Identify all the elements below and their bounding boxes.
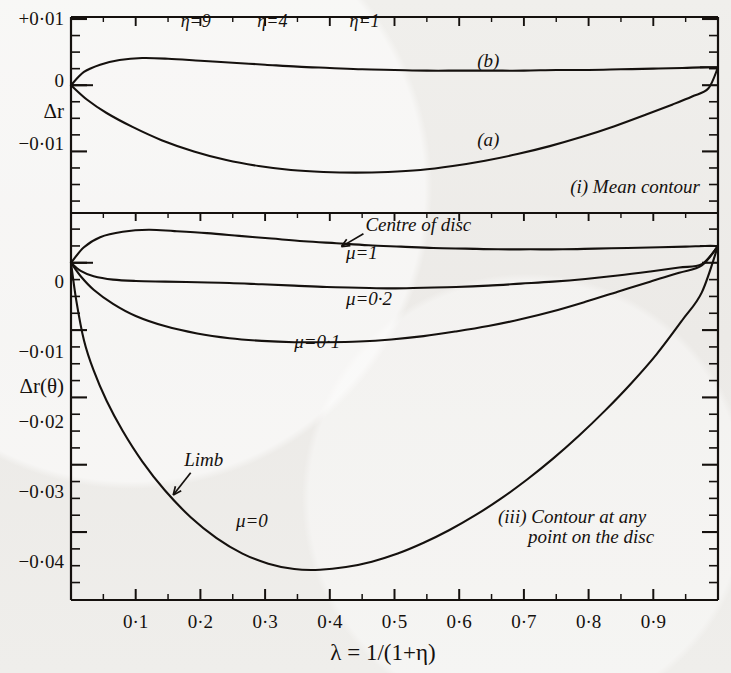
- x-tick-label-1: 0·2: [188, 611, 213, 632]
- curve-label-a: (a): [477, 129, 499, 151]
- bottom-ytick-label-1: −0·01: [18, 341, 64, 362]
- bottom-ytick-label-3: −0·03: [18, 481, 64, 502]
- annotation-centre-of-disc: Centre of disc: [365, 214, 471, 235]
- bottom-curve-mu-0p2: [71, 246, 718, 288]
- x-tick-label-4: 0·5: [382, 611, 407, 632]
- bottom-ytick-label-0: 0: [55, 271, 65, 292]
- curve-label-mu-1: μ=1: [345, 242, 378, 263]
- curve-label-mu-0: μ=0: [235, 510, 268, 531]
- x-tick-label-7: 0·8: [576, 611, 601, 632]
- arrow-limb-shaft: [173, 473, 190, 495]
- x-tick-label-2: 0·3: [252, 611, 277, 632]
- eta-label-4: η=4: [257, 11, 287, 31]
- top-ytick-label-0: +0·01: [18, 8, 64, 29]
- x-tick-label-0: 0·1: [123, 611, 148, 632]
- x-axis-label: λ = 1/(1+η): [330, 640, 435, 665]
- curve-label-mu-0p1: μ=0·1: [293, 331, 340, 352]
- bottom-y-axis-label: Δr(θ): [19, 374, 64, 398]
- eta-label-9: η=9: [181, 11, 211, 31]
- curve-label-mu-0p2: μ=0·2: [345, 288, 393, 309]
- top-panel-title: (i) Mean contour: [570, 176, 700, 198]
- contour-plot-svg: +0·01 0 −0·01 Δr η=9 η=4 η=1 (b) (a) (i)…: [0, 0, 731, 673]
- x-tick-label-8: 0·9: [641, 611, 666, 632]
- top-ytick-label-2: −0·01: [18, 133, 64, 154]
- bottom-curve-mu-1: [71, 230, 718, 263]
- annotation-limb: Limb: [183, 449, 223, 470]
- eta-label-1: η=1: [349, 11, 379, 31]
- bottom-ytick-label-2: −0·02: [18, 411, 64, 432]
- top-curve-a: [71, 67, 718, 172]
- bottom-ytick-label-4: −0·04: [18, 551, 64, 572]
- x-tick-label-3: 0·4: [317, 611, 343, 632]
- top-y-axis-label: Δr: [44, 99, 65, 123]
- bottom-panel-title-line2: point on the disc: [526, 526, 655, 547]
- x-tick-labels-layer: 0·10·20·30·40·50·60·70·80·9: [123, 611, 666, 632]
- figure-root: +0·01 0 −0·01 Δr η=9 η=4 η=1 (b) (a) (i)…: [0, 0, 731, 673]
- curve-label-b: (b): [477, 50, 499, 72]
- x-tick-label-5: 0·6: [447, 611, 472, 632]
- curves-layer: [71, 58, 718, 570]
- top-curve-b: [71, 58, 718, 85]
- top-ytick-label-1: 0: [55, 70, 65, 91]
- bottom-panel-title-line1: (iii) Contour at any: [498, 506, 647, 528]
- bottom-curve-mu-0p1: [71, 246, 718, 342]
- x-tick-label-6: 0·7: [511, 611, 536, 632]
